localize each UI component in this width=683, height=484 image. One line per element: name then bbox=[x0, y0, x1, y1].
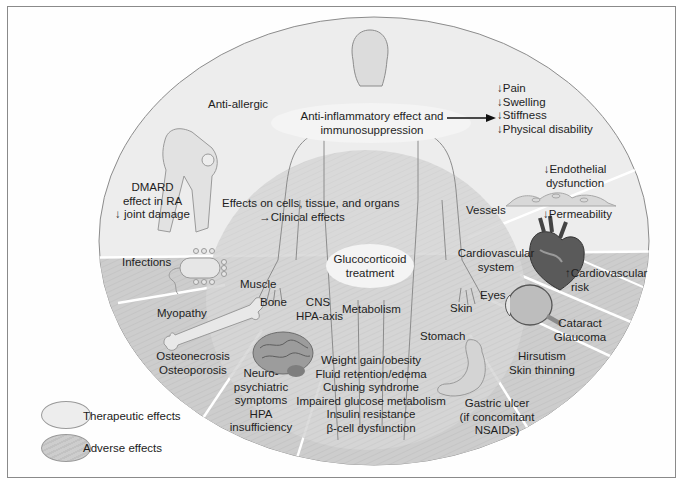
dmard-label: DMARD effect in RA ↓ joint damage bbox=[105, 181, 200, 222]
neuro-line4: HPA bbox=[226, 408, 296, 422]
gastric-line3: NSAIDs) bbox=[452, 424, 542, 438]
metabolic-effects-label: Weight gain/obesity Fluid retention/edem… bbox=[296, 354, 446, 435]
cardiovascular-system-line2: system bbox=[456, 261, 536, 275]
outcome-swelling: ↓Swelling bbox=[497, 96, 593, 110]
endothelial-label: ↓Endothelial dysfunction bbox=[535, 163, 615, 190]
dmard-line1: DMARD bbox=[105, 181, 200, 195]
dmard-line2: effect in RA bbox=[105, 195, 200, 209]
vessels-label: Vessels bbox=[466, 204, 506, 218]
neuro-line5: insufficiency bbox=[226, 421, 296, 435]
myopathy-label: Myopathy bbox=[157, 307, 207, 321]
endothelial-line1: ↓Endothelial bbox=[535, 163, 615, 177]
clinical-outcomes-list: ↓Pain ↓Swelling ↓Stiffness ↓Physical dis… bbox=[497, 82, 593, 136]
glucocorticoid-line1: Glucocorticoid bbox=[330, 253, 410, 267]
cns-label: CNS HPA-axis bbox=[296, 296, 340, 323]
bone-label: Bone bbox=[260, 296, 287, 310]
inner-effects-line1: Effects on cells, tissue, and organs bbox=[222, 197, 382, 211]
anti-inflammatory-line1: Anti-inflammatory effect and bbox=[272, 110, 472, 124]
skin-label: Skin bbox=[450, 302, 472, 316]
cardiovascular-system-label: Cardiovascular system bbox=[456, 247, 536, 274]
stomach-label: Stomach bbox=[420, 330, 465, 344]
cardio-risk-line2: risk bbox=[565, 281, 647, 295]
cns-line1: CNS bbox=[296, 296, 340, 310]
cataract-line1: Cataract bbox=[550, 317, 610, 331]
outcome-physical-disability: ↓Physical disability bbox=[497, 123, 593, 137]
metabolic-line4: Impaired glucose metabolism bbox=[296, 395, 446, 409]
metabolic-line3: Cushing syndrome bbox=[296, 381, 446, 395]
glaucoma-line2: Glaucoma bbox=[550, 331, 610, 345]
skin-effects-label: Hirsutism Skin thinning bbox=[502, 350, 582, 377]
neuro-line1: Neuro- bbox=[226, 367, 296, 381]
permeability-label: ↓Permeability bbox=[543, 208, 612, 222]
metabolism-label: Metabolism bbox=[342, 303, 401, 317]
outcome-pain: ↓Pain bbox=[497, 82, 593, 96]
metabolic-line2: Fluid retention/edema bbox=[296, 368, 446, 382]
anti-inflammatory-label: Anti-inflammatory effect and immunosuppr… bbox=[272, 110, 472, 137]
gastric-ulcer-label: Gastric ulcer (if concomitant NSAIDs) bbox=[452, 397, 542, 438]
osteoporosis-line2: Osteoporosis bbox=[153, 364, 233, 378]
infections-label: Infections bbox=[122, 256, 171, 270]
cardiovascular-risk-label: ↑Cardiovascular risk bbox=[565, 267, 647, 294]
metabolic-line6: β-cell dysfunction bbox=[296, 422, 446, 436]
dmard-line3: ↓ joint damage bbox=[105, 208, 200, 222]
neuropsychiatric-label: Neuro- psychiatric symptoms HPA insuffic… bbox=[226, 367, 296, 435]
inner-effects-line2: →Clinical effects bbox=[222, 211, 382, 225]
eyes-label: Eyes bbox=[480, 289, 506, 303]
outcome-stiffness: ↓Stiffness bbox=[497, 109, 593, 123]
metabolic-line5: Insulin resistance bbox=[296, 408, 446, 422]
neuro-line3: symptoms bbox=[226, 394, 296, 408]
gastric-line2: (if concomitant bbox=[452, 411, 542, 425]
glucocorticoid-treatment-label: Glucocorticoid treatment bbox=[330, 253, 410, 280]
human-silhouette bbox=[352, 30, 388, 86]
anti-inflammatory-line2: immunosuppression bbox=[272, 124, 472, 138]
hirsutism-line1: Hirsutism bbox=[502, 350, 582, 364]
gastric-line1: Gastric ulcer bbox=[452, 397, 542, 411]
inner-effects-label: Effects on cells, tissue, and organs →Cl… bbox=[222, 197, 382, 224]
glucocorticoid-line2: treatment bbox=[330, 267, 410, 281]
skin-thinning-line2: Skin thinning bbox=[502, 364, 582, 378]
cardiovascular-system-line1: Cardiovascular bbox=[456, 247, 536, 261]
eye-effects-label: Cataract Glaucoma bbox=[550, 317, 610, 344]
endothelial-line2: dysfunction bbox=[535, 177, 615, 191]
cardio-risk-line1: ↑Cardiovascular bbox=[565, 267, 647, 281]
anti-allergic-label: Anti-allergic bbox=[208, 98, 268, 112]
cns-line2: HPA-axis bbox=[296, 310, 340, 324]
metabolic-line1: Weight gain/obesity bbox=[296, 354, 446, 368]
muscle-label: Muscle bbox=[240, 278, 276, 292]
neuro-line2: psychiatric bbox=[226, 381, 296, 395]
osteonecrosis-label: Osteonecrosis Osteoporosis bbox=[153, 350, 233, 377]
legend-therapeutic-label: Therapeutic effects bbox=[83, 409, 181, 423]
osteonecrosis-line1: Osteonecrosis bbox=[153, 350, 233, 364]
legend-adverse-label: Adverse effects bbox=[83, 441, 162, 455]
